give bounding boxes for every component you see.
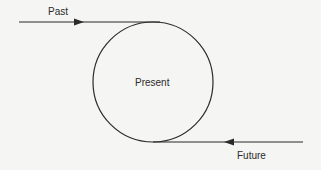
- past-arrow-icon: [74, 19, 84, 26]
- diagram-canvas: Past Present Future: [0, 0, 321, 170]
- future-label: Future: [237, 150, 266, 161]
- time-loop-diagram: Past Present Future: [0, 0, 321, 170]
- past-label: Past: [48, 6, 68, 17]
- present-label: Present: [135, 77, 170, 88]
- future-arrow-icon: [224, 139, 234, 146]
